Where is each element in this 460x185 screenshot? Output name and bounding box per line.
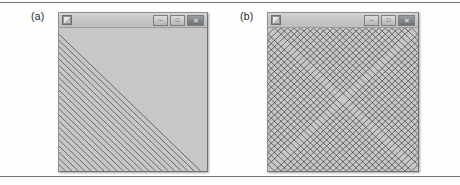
panel-label-b: (b) [240,11,253,22]
maximize-button[interactable]: □ [381,15,396,26]
close-icon: ✕ [193,17,199,24]
window-b[interactable]: – □ ✕ [267,12,419,172]
panel-label-a: (a) [31,11,44,22]
canvas-b[interactable] [268,28,418,171]
minimize-button[interactable]: – [153,15,168,26]
app-icon [271,15,281,25]
figure-rule-bottom [0,176,460,177]
figure-root: (a) (b) – □ ✕ [0,0,460,185]
maximize-icon: □ [387,17,391,23]
minimize-icon: – [370,17,373,23]
titlebar-a[interactable]: – □ ✕ [59,13,207,28]
close-icon: ✕ [404,17,410,24]
maximize-icon: □ [176,17,180,23]
figure-rule-top [0,2,460,3]
window-controls-a: – □ ✕ [153,15,204,26]
canvas-a[interactable] [59,28,207,171]
minimize-icon: – [159,17,162,23]
string-art-a [59,28,207,171]
string-art-b [268,28,418,171]
window-a[interactable]: – □ ✕ [58,12,208,172]
minimize-button[interactable]: – [364,15,379,26]
maximize-button[interactable]: □ [170,15,185,26]
titlebar-b[interactable]: – □ ✕ [268,13,418,28]
window-controls-b: – □ ✕ [364,15,415,26]
close-button[interactable]: ✕ [187,15,204,26]
close-button[interactable]: ✕ [398,15,415,26]
app-icon [62,15,72,25]
